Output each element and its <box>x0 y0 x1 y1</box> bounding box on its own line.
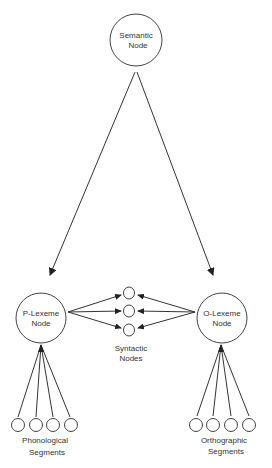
phonological-label-1: Phonological <box>22 436 68 445</box>
arrow-semantic-to-p-lexeme <box>50 72 135 275</box>
syntactic-label-1: Syntactic <box>115 344 147 353</box>
arrow-o-to-syn-3 <box>138 312 195 328</box>
phonological-label-2: Segments <box>29 448 65 457</box>
lexical-network-diagram: Semantic Node P-Lexeme Node O-Lexeme Nod… <box>0 0 272 468</box>
phonological-segments: Phonological Segments <box>12 344 78 457</box>
syntactic-nodes: Syntactic Nodes <box>115 287 147 363</box>
syntactic-label-2: Nodes <box>119 354 142 363</box>
arrow-p-to-syn-3 <box>68 312 121 328</box>
arrow-p-to-syn-1 <box>68 295 121 312</box>
o-lexeme-label-1: O-Lexeme <box>203 309 241 318</box>
orthographic-label-1: Orthographic <box>201 436 247 445</box>
semantic-node-label-1: Semantic <box>119 31 152 40</box>
arrow-semantic-to-o-lexeme <box>137 72 213 275</box>
arrow-o-to-syn-2 <box>138 311 195 312</box>
p-lexeme-node: P-Lexeme Node <box>16 293 66 343</box>
arrow-p-to-syn-2 <box>68 311 121 312</box>
o-lexeme-label-2: Node <box>212 319 232 328</box>
p-lexeme-label-2: Node <box>31 319 51 328</box>
orthographic-segments: Orthographic Segments <box>190 344 256 456</box>
arrow-o-to-syn-1 <box>138 295 195 312</box>
orthographic-label-2: Segments <box>208 447 244 456</box>
semantic-node: Semantic Node <box>110 14 162 66</box>
o-lexeme-node: O-Lexeme Node <box>197 293 247 343</box>
p-lexeme-label-1: P-Lexeme <box>23 309 60 318</box>
semantic-node-label-2: Node <box>128 41 148 50</box>
